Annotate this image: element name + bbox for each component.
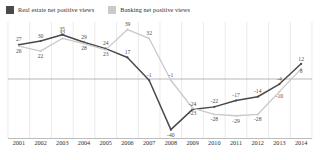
data-label: -28 <box>254 116 262 122</box>
data-label: 24 <box>103 40 109 46</box>
data-label: -28 <box>211 116 219 122</box>
x-axis-tick-label: 2013 <box>273 140 285 146</box>
gridlines-group <box>8 22 312 138</box>
legend-label-banking: Banking net positive views <box>120 7 190 13</box>
x-axis-tick-label: 2001 <box>13 140 25 146</box>
data-label: 27 <box>16 36 22 42</box>
data-label: -14 <box>254 88 262 94</box>
data-label: -17 <box>232 92 240 98</box>
data-label: -40 <box>167 132 175 138</box>
legend-label-real-estate: Real estate net positive views <box>18 7 94 13</box>
data-label: 8 <box>300 68 303 74</box>
data-label: -4 <box>277 76 282 82</box>
data-label: -23 <box>189 110 197 116</box>
chart-container: Real estate net positive views Banking n… <box>0 0 320 160</box>
data-label: -24 <box>189 101 197 107</box>
plot-area: 273035292417-1-40-24-22-17-14-4122622322… <box>0 20 320 138</box>
x-axis-tick-label: 2006 <box>121 140 133 146</box>
x-axis-tick-label: 2005 <box>100 140 112 146</box>
data-label: 32 <box>146 30 152 36</box>
data-label: -10 <box>276 93 284 99</box>
legend-item-banking: Banking net positive views <box>108 6 190 14</box>
data-label: 22 <box>38 53 44 59</box>
x-axis: 2001200220032004200520062007200820092010… <box>0 140 320 154</box>
x-axis-rule <box>8 138 312 139</box>
x-axis-tick-label: 2008 <box>165 140 177 146</box>
data-label: 39 <box>125 21 131 27</box>
x-axis-tick-label: 2011 <box>230 140 242 146</box>
data-label: 26 <box>16 48 22 54</box>
x-axis-tick-label: 2010 <box>208 140 220 146</box>
data-label: 12 <box>298 56 304 62</box>
chart-svg: 273035292417-1-40-24-22-17-14-4122622322… <box>0 20 320 138</box>
x-axis-tick-label: 2003 <box>56 140 68 146</box>
x-axis-tick-label: 2002 <box>34 140 46 146</box>
data-label: -1 <box>147 72 152 78</box>
data-label: -1 <box>169 72 174 78</box>
x-axis-tick-label: 2007 <box>143 140 155 146</box>
data-label: -29 <box>232 118 240 124</box>
data-label: 28 <box>81 45 87 51</box>
legend-swatch-banking-icon <box>108 6 116 14</box>
data-label: 23 <box>103 51 109 57</box>
chart-legend: Real estate net positive views Banking n… <box>6 6 190 14</box>
data-label: 30 <box>38 33 44 39</box>
x-axis-tick-label: 2014 <box>295 140 307 146</box>
x-axis-tick-label: 2012 <box>252 140 264 146</box>
legend-item-real-estate: Real estate net positive views <box>6 6 94 14</box>
data-label: 29 <box>81 34 87 40</box>
x-axis-tick-label: 2004 <box>78 140 90 146</box>
legend-swatch-real-estate-icon <box>6 6 14 14</box>
data-label: -22 <box>211 98 219 104</box>
data-label: 32 <box>59 30 65 36</box>
x-axis-tick-label: 2009 <box>186 140 198 146</box>
data-label: 17 <box>125 49 131 55</box>
